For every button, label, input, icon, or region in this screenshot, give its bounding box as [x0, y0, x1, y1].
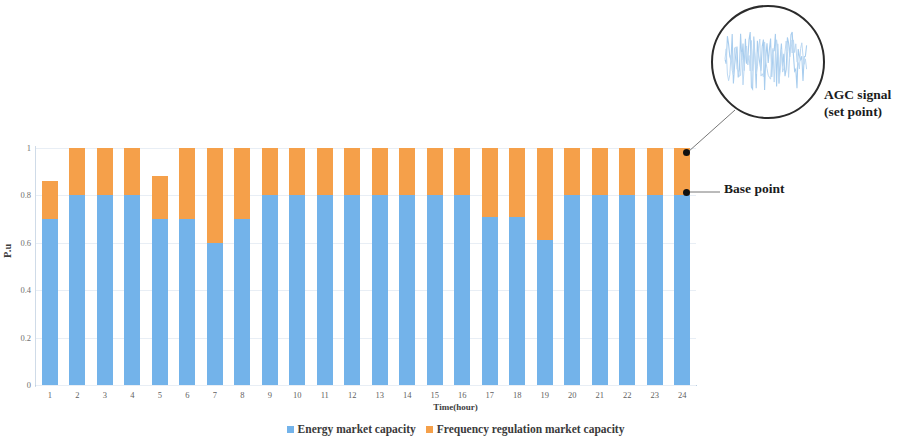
gridline [36, 385, 696, 386]
bar-hour-3 [97, 148, 113, 385]
bar-segment-frequency-regulation [42, 181, 58, 219]
bar-segment-frequency-regulation [69, 148, 85, 195]
x-tick-label: 1 [48, 390, 52, 400]
legend-label: Frequency regulation market capacity [437, 423, 625, 435]
bar-segment-energy-market [344, 195, 360, 385]
bar-segment-frequency-regulation [399, 148, 415, 195]
bar-segment-frequency-regulation [179, 148, 195, 219]
bar-segment-energy-market [317, 195, 333, 385]
bar-segment-energy-market [399, 195, 415, 385]
bar-hour-10 [289, 148, 305, 385]
x-tick-label: 24 [678, 390, 687, 400]
bar-hour-12 [344, 148, 360, 385]
x-tick-label: 8 [240, 390, 244, 400]
bar-segment-energy-market [234, 219, 250, 385]
agc-signal-waveform [713, 7, 819, 113]
bar-hour-21 [592, 148, 608, 385]
legend-label: Energy market capacity [298, 423, 416, 435]
x-tick-label: 11 [321, 390, 329, 400]
bar-segment-energy-market [674, 195, 690, 385]
bar-segment-frequency-regulation [124, 148, 140, 195]
x-tick-label: 15 [431, 390, 440, 400]
x-tick-label: 5 [158, 390, 162, 400]
bar-hour-24 [674, 148, 690, 385]
annotation-agc-line1: AGC signal [824, 86, 891, 103]
y-tick-label: 0.4 [20, 285, 31, 295]
x-tick-label: 9 [268, 390, 272, 400]
x-axis-title: Time(hour) [0, 402, 911, 412]
bar-hour-7 [207, 148, 223, 385]
plot-area [36, 148, 696, 385]
bar-hour-11 [317, 148, 333, 385]
bar-segment-energy-market [619, 195, 635, 385]
bar-segment-energy-market [207, 243, 223, 385]
x-tick-label: 20 [568, 390, 577, 400]
bar-segment-energy-market [482, 217, 498, 385]
bar-segment-frequency-regulation [152, 176, 168, 219]
agc-signal-marker-dot [683, 149, 690, 156]
bar-segment-frequency-regulation [509, 148, 525, 217]
x-tick-label: 22 [623, 390, 632, 400]
bar-segment-frequency-regulation [619, 148, 635, 195]
bar-segment-energy-market [42, 219, 58, 385]
y-tick-label: 0.2 [20, 333, 31, 343]
y-tick-label: 0.6 [20, 238, 31, 248]
annotation-agc-line2: (set point) [824, 103, 891, 120]
legend-item-energy-market: Energy market capacity [287, 423, 416, 435]
bar-hour-16 [454, 148, 470, 385]
bar-segment-energy-market [124, 195, 140, 385]
y-tick-label: 0 [27, 380, 31, 390]
bar-segment-energy-market [262, 195, 278, 385]
bar-hour-14 [399, 148, 415, 385]
bar-segment-energy-market [289, 195, 305, 385]
bar-segment-frequency-regulation [97, 148, 113, 195]
bar-hour-9 [262, 148, 278, 385]
bar-hour-23 [647, 148, 663, 385]
bar-segment-frequency-regulation [289, 148, 305, 195]
base-point-marker-dot [683, 189, 690, 196]
x-tick-label: 7 [213, 390, 217, 400]
legend-swatch-icon [426, 426, 433, 433]
bar-hour-1 [42, 148, 58, 385]
x-tick-label: 19 [541, 390, 550, 400]
bar-segment-frequency-regulation [207, 148, 223, 243]
bar-segment-energy-market [647, 195, 663, 385]
bar-segment-energy-market [537, 240, 553, 385]
bar-segment-energy-market [97, 195, 113, 385]
annotation-agc-signal: AGC signal (set point) [824, 86, 891, 120]
bar-segment-frequency-regulation [262, 148, 278, 195]
y-tick-label: 0.8 [20, 190, 31, 200]
bar-hour-4 [124, 148, 140, 385]
bar-segment-energy-market [69, 195, 85, 385]
bar-segment-energy-market [454, 195, 470, 385]
annotation-base-point: Base point [724, 180, 784, 197]
chart-canvas: P.u 00.20.40.60.81 123456789101112131415… [0, 0, 911, 443]
bar-segment-energy-market [372, 195, 388, 385]
x-tick-label: 17 [486, 390, 495, 400]
bar-hour-2 [69, 148, 85, 385]
x-tick-label: 12 [348, 390, 357, 400]
bar-segment-frequency-regulation [372, 148, 388, 195]
x-tick-label: 18 [513, 390, 522, 400]
bar-segment-energy-market [564, 195, 580, 385]
bar-segment-energy-market [509, 217, 525, 385]
agc-signal-magnifier-circle [711, 5, 825, 119]
x-tick-label: 23 [651, 390, 660, 400]
x-tick-label: 16 [458, 390, 467, 400]
bar-hour-22 [619, 148, 635, 385]
bar-hour-13 [372, 148, 388, 385]
bar-segment-frequency-regulation [647, 148, 663, 195]
bar-hour-8 [234, 148, 250, 385]
x-tick-label: 10 [293, 390, 302, 400]
bar-segment-frequency-regulation [234, 148, 250, 219]
x-tick-label: 2 [75, 390, 79, 400]
bar-hour-5 [152, 148, 168, 385]
y-tick-label: 1 [27, 143, 31, 153]
bar-segment-frequency-regulation [537, 148, 553, 240]
legend-item-frequency-regulation: Frequency regulation market capacity [426, 423, 625, 435]
legend-swatch-icon [287, 426, 294, 433]
bar-segment-energy-market [592, 195, 608, 385]
x-tick-label: 14 [403, 390, 412, 400]
bar-segment-frequency-regulation [592, 148, 608, 195]
bar-hour-15 [427, 148, 443, 385]
